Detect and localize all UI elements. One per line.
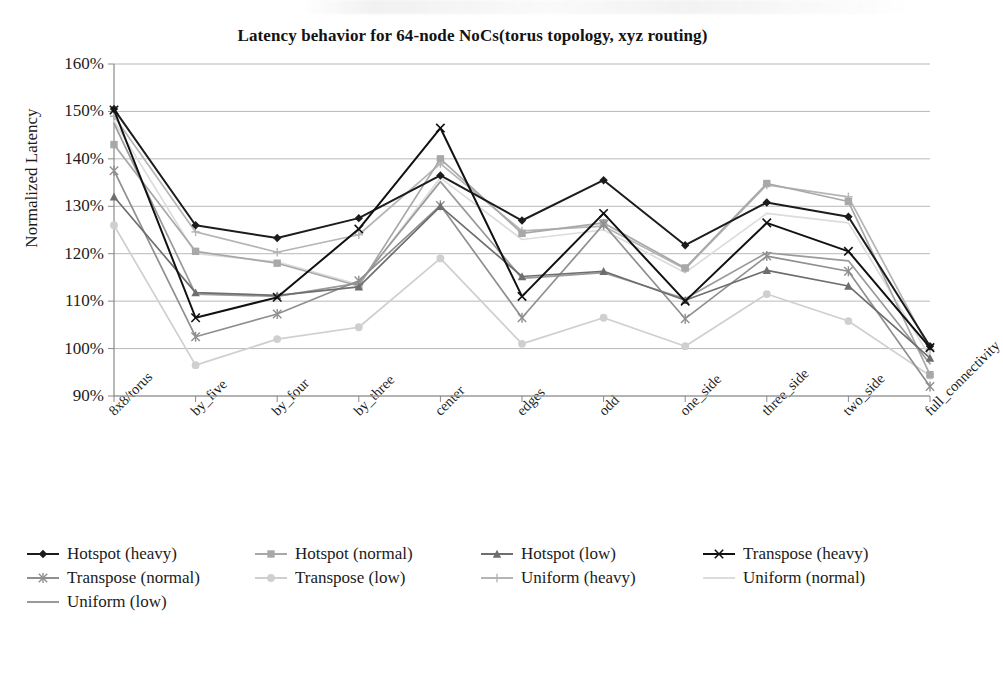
marker-circle [355,323,363,331]
marker-square [763,180,770,187]
marker-square [274,260,281,267]
marker-triangle [110,193,118,201]
marker-square [682,264,689,271]
marker-circle [110,221,118,229]
legend-label: Transpose (heavy) [743,545,868,562]
legend-row: Hotspot (heavy)Hotspot (normal)Hotspot (… [26,545,926,562]
legend-label: Uniform (normal) [743,569,865,586]
marker-diamond [39,549,47,557]
legend-item-uniform-heavy[interactable]: Uniform (heavy) [480,569,702,586]
legend-label: Transpose (low) [295,569,405,586]
legend-marker [702,546,736,562]
marker-cross [436,124,444,132]
legend-key-icon [702,570,736,586]
marker-diamond [273,234,281,242]
legend-item-transpose-low[interactable]: Transpose (low) [254,569,480,586]
marker-square [437,155,444,162]
marker-circle [763,290,771,298]
legend-item-uniform-normal[interactable]: Uniform (normal) [702,569,926,586]
marker-square [845,198,852,205]
marker-star [110,166,118,176]
marker-circle [267,574,275,582]
marker-circle [437,255,445,263]
marker-diamond [436,171,444,179]
legend-row: Uniform (low) [26,593,926,610]
marker-square [267,550,274,557]
legend-item-transpose-normal[interactable]: Transpose (normal) [26,569,254,586]
legend-label: Uniform (heavy) [521,569,636,586]
legend-marker [480,570,514,586]
marker-square [926,371,933,378]
marker-square [192,248,199,255]
marker-circle [518,340,526,348]
legend-key-icon [26,570,60,586]
marker-circle [681,342,689,350]
marker-plus [493,573,501,581]
series-line [114,225,930,375]
legend-key-icon [480,546,514,562]
legend-marker [254,546,288,562]
marker-circle [845,317,853,325]
marker-cross [599,209,607,217]
legend-label: Uniform (low) [67,593,167,610]
legend-key-icon [26,594,60,610]
legend-marker [254,570,288,586]
legend-key-icon [254,570,288,586]
marker-square [110,141,117,148]
series-transpose-low [110,221,934,379]
legend-label: Hotspot (heavy) [67,545,177,562]
legend-marker [702,570,736,586]
marker-star [681,314,689,324]
legend-key-icon [254,546,288,562]
marker-diamond [355,214,363,222]
legend-marker [26,546,60,562]
marker-circle [192,361,200,369]
marker-circle [600,314,608,322]
legend-item-transpose-heavy[interactable]: Transpose (heavy) [702,545,926,562]
legend-marker [26,570,60,586]
legend-item-hotspot-heavy[interactable]: Hotspot (heavy) [26,545,254,562]
marker-diamond [763,198,771,206]
marker-square [518,230,525,237]
legend-label: Hotspot (normal) [295,545,413,562]
legend-key-icon [480,570,514,586]
marker-diamond [518,216,526,224]
marker-plus [273,248,281,256]
legend-label: Transpose (normal) [67,569,200,586]
legend-row: Transpose (normal)Transpose (low)Uniform… [26,569,926,586]
legend-item-hotspot-low[interactable]: Hotspot (low) [480,545,702,562]
legend-item-hotspot-normal[interactable]: Hotspot (normal) [254,545,480,562]
legend-marker [26,594,60,610]
legend-label: Hotspot (low) [521,545,616,562]
marker-cross [518,292,526,300]
marker-star [518,313,526,323]
legend-marker [480,546,514,562]
marker-star [926,382,934,392]
chart-legend: Hotspot (heavy)Hotspot (normal)Hotspot (… [26,545,926,617]
marker-circle [273,335,281,343]
legend-key-icon [26,546,60,562]
legend-key-icon [702,546,736,562]
legend-item-uniform-low[interactable]: Uniform (low) [26,593,254,610]
